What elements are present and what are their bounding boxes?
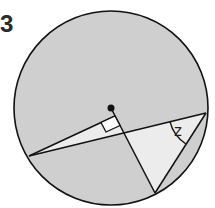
center-dot: [108, 105, 115, 112]
circle-theorem-diagram: z: [0, 0, 215, 208]
angle-label-z: z: [174, 122, 182, 140]
